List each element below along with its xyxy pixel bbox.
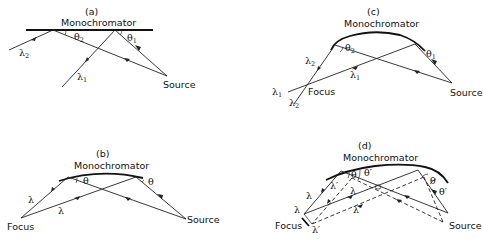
theta1-label: θ1 — [426, 48, 436, 61]
panel-c-monochromator-label: Monochromator — [344, 18, 419, 29]
theta-right-prime-label: θ′ — [439, 186, 447, 197]
lambda1-label: λ1 — [77, 71, 87, 84]
panel-a-monochromator-label: Monochromator — [61, 17, 136, 28]
arrow-icon — [431, 189, 437, 195]
arrow-icon — [124, 58, 130, 62]
ray-lambda1-reflected — [62, 30, 115, 87]
panel-d-source-label: Source — [449, 220, 482, 231]
lambda-left-label: λ — [306, 190, 312, 201]
panel-c-label: (c) — [367, 6, 380, 17]
theta1-label: θ1 — [127, 32, 137, 45]
lambda-focus-label: λ — [294, 204, 300, 215]
lambda-upper-label: λ — [28, 194, 34, 205]
lambda2-label: λ2 — [19, 47, 29, 60]
panel-c-focus-label: Focus — [308, 86, 335, 97]
theta-left-prime-label: θ′ — [364, 167, 372, 178]
arrow-icon — [85, 57, 89, 62]
theta2-label: θ2 — [74, 31, 84, 44]
panel-b-focus-label: Focus — [7, 221, 34, 232]
arrow-icon — [51, 187, 55, 192]
panel-a-source-label: Source — [163, 79, 196, 90]
panel-d: (d) Monochromator θ θ′ θ θ′ λ — [275, 140, 482, 235]
ray-source-to-crystal-2 — [53, 30, 167, 76]
theta2-arc — [340, 47, 343, 52]
panel-b: (b) Monochromator θ θ λ λ Focus Source — [7, 148, 220, 232]
panel-c-source-label: Source — [450, 87, 483, 98]
lambda1-end-label: λ1 — [272, 86, 282, 99]
theta-right-arc — [142, 180, 144, 182]
lambda-mid-prime-label: λ′ — [353, 204, 361, 215]
arrow-icon — [31, 37, 36, 41]
ray-source-to-crystal-1 — [115, 30, 167, 76]
panel-d-label: (d) — [358, 140, 371, 151]
panel-b-monochromator-label: Monochromator — [74, 160, 149, 171]
panel-a: (a) Monochromator θ1 θ2 λ1 λ2 Source — [9, 6, 196, 90]
arrow-icon — [74, 196, 80, 200]
panel-a-label: (a) — [85, 6, 98, 17]
theta2-label: θ2 — [345, 42, 355, 55]
arrow-icon — [157, 194, 163, 199]
panel-b-label: (b) — [96, 148, 109, 159]
monochromator-diagram: (a) Monochromator θ1 θ2 λ1 λ2 Source (c)… — [0, 0, 483, 239]
lambda1-ray-label: λ1 — [350, 69, 360, 82]
theta-right-label: θ — [148, 176, 154, 187]
theta-left-label: θ — [83, 175, 89, 186]
theta-left-label: θ — [351, 169, 357, 180]
lambda-mid-label: λ — [350, 185, 356, 196]
theta-right-arc — [423, 174, 428, 176]
curved-crystal — [59, 174, 143, 181]
panel-b-source-label: Source — [187, 214, 220, 225]
lambda-left-prime-label: λ′ — [330, 180, 338, 191]
panel-d-focus-label: Focus — [275, 220, 302, 231]
lambda2-ray-label: λ2 — [305, 55, 315, 68]
arrow-icon — [396, 199, 402, 203]
panel-c: (c) Monochromator θ2 θ1 λ2 λ1 λ1 λ2 Focu… — [272, 6, 483, 110]
lambda-lower-label: λ — [58, 205, 64, 216]
theta-right-label: θ — [430, 175, 436, 186]
panel-d-monochromator-label: Monochromator — [343, 152, 418, 163]
arrow-icon — [404, 195, 410, 199]
lambda-focus-prime-label: λ′ — [312, 224, 320, 235]
